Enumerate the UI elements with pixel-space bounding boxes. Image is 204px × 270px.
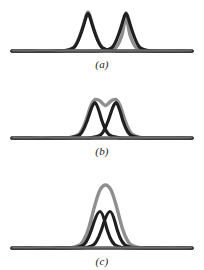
panel-c-curves <box>12 185 192 248</box>
panel-c-baseline-noise <box>13 247 191 248</box>
panel-c: (c) <box>0 172 204 270</box>
panel-a-label: (a) <box>0 58 204 70</box>
panel-b-label: (b) <box>0 145 204 157</box>
panel-b: (b) <box>0 88 204 175</box>
resolution-figure: (a) (b) <box>0 0 204 270</box>
panel-a-sum-curve <box>12 12 192 51</box>
panel-b-svg <box>0 88 204 146</box>
panel-a-plot <box>0 0 204 60</box>
panel-a-source1-curve <box>12 14 192 52</box>
panel-a-curves <box>12 12 192 51</box>
panel-b-curves <box>12 99 192 138</box>
panel-b-baseline-noise <box>13 137 191 138</box>
panel-a-svg <box>0 0 204 60</box>
panel-c-svg <box>0 172 204 256</box>
panel-a-baseline-noise <box>13 50 191 51</box>
panel-a: (a) <box>0 0 204 90</box>
panel-c-plot <box>0 172 204 256</box>
panel-c-label: (c) <box>0 255 204 267</box>
panel-b-plot <box>0 88 204 146</box>
